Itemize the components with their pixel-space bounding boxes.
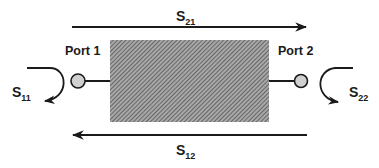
port-1-terminal xyxy=(71,74,85,88)
two-port-network-diagram: S21 Port 1 S11 Port 2 S22 S12 xyxy=(0,0,379,168)
port-1-label: Port 1 xyxy=(65,44,100,58)
s11-label: S11 xyxy=(12,84,31,103)
s11-reflection-arrow xyxy=(27,68,64,101)
s22-label: S22 xyxy=(349,84,368,103)
network-box xyxy=(110,40,269,122)
s12-label: S12 xyxy=(176,142,195,161)
s21-label: S21 xyxy=(176,8,195,27)
port-2-label: Port 2 xyxy=(278,44,313,58)
port-2-terminal xyxy=(295,75,308,88)
